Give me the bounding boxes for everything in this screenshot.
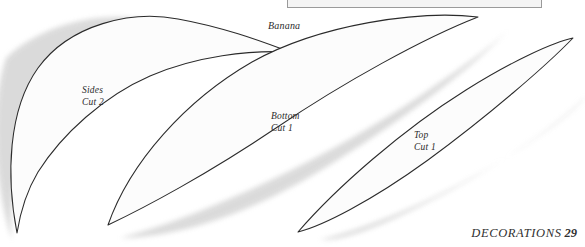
top-cut-count: Cut 1 bbox=[414, 141, 436, 153]
pattern-label-top: Top Cut 1 bbox=[414, 129, 436, 153]
page-footer: DECORATIONS29 bbox=[471, 226, 577, 241]
banana-title-text: Banana bbox=[268, 20, 300, 32]
footer-section-name: DECORATIONS bbox=[471, 226, 561, 240]
sides-piece-name: Sides bbox=[82, 84, 104, 96]
top-piece-name: Top bbox=[414, 129, 436, 141]
footer-page-number: 29 bbox=[565, 226, 578, 240]
cropped-panel bbox=[287, 0, 542, 8]
sides-cut-count: Cut 2 bbox=[82, 96, 104, 108]
pattern-label-bottom: Bottom Cut 1 bbox=[271, 110, 300, 134]
pattern-page: Banana Sides Cut 2 Bottom Cut 1 Top Cut … bbox=[0, 0, 585, 247]
pattern-label-sides: Sides Cut 2 bbox=[82, 84, 104, 108]
bottom-piece-name: Bottom bbox=[271, 110, 300, 122]
bottom-cut-count: Cut 1 bbox=[271, 122, 300, 134]
pattern-title-banana: Banana bbox=[268, 20, 300, 32]
